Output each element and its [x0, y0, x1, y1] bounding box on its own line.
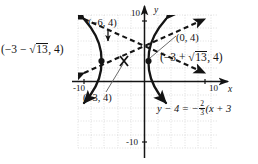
- point-neg6-4-label: (−6, 4): [88, 18, 117, 29]
- x-axis-tick-right-label: 10: [209, 84, 218, 93]
- vertex-right-label: (−3 + √13, 4): [160, 51, 222, 64]
- center-label: (−3, 4): [83, 93, 112, 104]
- point-0-4-label: (0, 4): [176, 33, 199, 44]
- center-marker: [120, 56, 128, 66]
- x-axis-label: x: [228, 85, 232, 95]
- y-axis-tick-bottom-label: -10: [126, 138, 138, 147]
- x-axis-tick-left-label: -10: [73, 84, 85, 93]
- y-axis-tick-top-label: 10: [131, 9, 140, 18]
- sqrt-symbol-right: √13: [188, 51, 207, 64]
- equation-rhs: (x + 3: [205, 103, 231, 114]
- equation-label: y − 4 = −23(x + 3: [157, 100, 231, 116]
- vertex-left-dot: [98, 58, 104, 64]
- hyperbola-figure: (−3 − √13, 4) (−3 + √13, 4) (−6, 4) (0, …: [0, 0, 258, 164]
- y-axis-label: y: [154, 6, 158, 16]
- sqrt-symbol-left: √13: [29, 43, 48, 56]
- vertex-right-dot: [145, 58, 151, 64]
- equation-lhs: y − 4 = −: [157, 103, 199, 114]
- vertex-left-label: (−3 − √13, 4): [1, 43, 63, 56]
